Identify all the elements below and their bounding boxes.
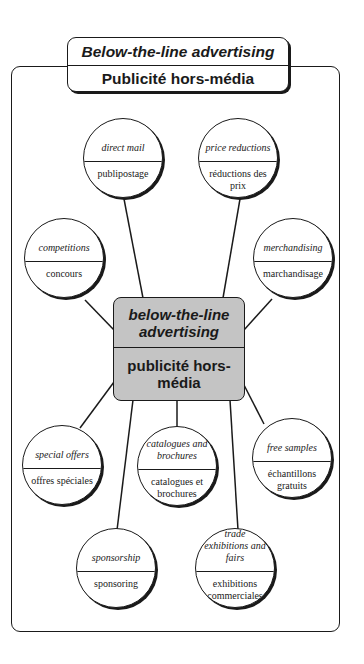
connector-sponsorship — [117, 400, 133, 530]
connector-merchandising — [244, 299, 272, 330]
diagram-title-box: Below-the-line advertising Publicité hor… — [67, 37, 289, 92]
node-label-fr: marchandisage — [254, 263, 332, 297]
node-competitions: competitions concours — [24, 218, 104, 298]
node-label-fr: échantillons gratuits — [253, 463, 331, 497]
node-label-en: catalogues and brochures — [138, 427, 216, 470]
node-trade-exhibitions-and-fairs: trade exhibitions and fairs exhibitions … — [195, 528, 275, 608]
connector-direct-mail — [124, 199, 143, 298]
connector-competitions — [85, 300, 114, 330]
central-label-en: below-the-line advertising — [114, 298, 244, 348]
title-french: Publicité hors-média — [68, 66, 288, 92]
node-label-fr: publipostage — [84, 163, 162, 197]
node-label-en: free samples — [253, 419, 331, 462]
node-special-offers: special offers offres spéciales — [22, 425, 102, 505]
node-label-en: direct mail — [84, 119, 162, 162]
node-label-en: sponsorship — [77, 529, 155, 572]
central-concept-box: below-the-line advertising publicité hor… — [113, 297, 245, 401]
node-price-reductions: price reductions réductions des prix — [198, 118, 278, 198]
node-free-samples: free samples échantillons gratuits — [252, 418, 332, 498]
node-sponsorship: sponsorship sponsoring — [76, 528, 156, 608]
node-label-fr: offres spéciales — [23, 470, 101, 504]
node-label-fr: catalogues et brochures — [138, 471, 216, 505]
node-direct-mail: direct mail publipostage — [83, 118, 163, 198]
node-label-en: merchandising — [254, 219, 332, 262]
connector-price-reductions — [223, 199, 240, 298]
node-label-fr: réductions des prix — [199, 163, 277, 197]
node-label-fr: concours — [25, 263, 103, 297]
central-label-fr: publicité hors-média — [114, 348, 244, 400]
connector-special-offers — [80, 382, 114, 428]
node-catalogues-and-brochures: catalogues and brochures catalogues et b… — [137, 426, 217, 506]
node-label-fr: sponsoring — [77, 573, 155, 607]
node-label-en: price reductions — [199, 119, 277, 162]
title-english: Below-the-line advertising — [68, 38, 288, 66]
node-label-fr: exhibitions commerciales — [196, 573, 274, 607]
node-label-en: trade exhibitions and fairs — [196, 529, 274, 572]
connector-trade-exhibitions — [230, 400, 238, 530]
node-label-en: competitions — [25, 219, 103, 262]
node-label-en: special offers — [23, 426, 101, 469]
node-merchandising: merchandising marchandisage — [253, 218, 333, 298]
